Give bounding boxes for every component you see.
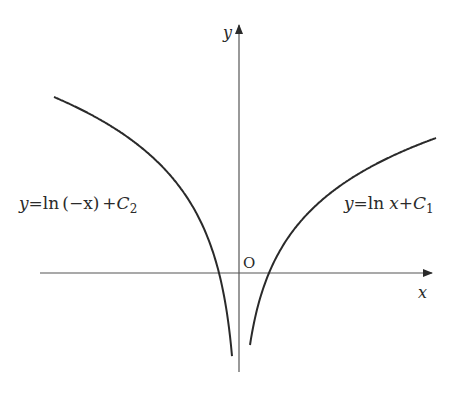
curve-ln-neg-x-plus-c2 (54, 97, 232, 356)
x-axis-label: x (418, 283, 427, 302)
label-eq: = (354, 193, 368, 213)
label-sub: 1 (426, 202, 434, 216)
label-plus: + (399, 193, 413, 213)
label-fn: ln (43, 193, 59, 213)
label-const: C (413, 193, 426, 213)
diagram-canvas: y x O y=lnx+C1 y=ln(−x)+C2 (0, 0, 462, 407)
label-plus: + (102, 193, 116, 213)
label-const: C (117, 193, 130, 213)
label-sub: 2 (130, 202, 138, 216)
y-axis-label: y (222, 23, 233, 42)
label-lhs: y (18, 193, 29, 213)
curve-label-right: y=lnx+C1 (343, 193, 434, 216)
label-arg: x (389, 193, 399, 213)
label-fn: ln (368, 193, 384, 213)
curve-ln-x-plus-c1 (250, 138, 436, 345)
curve-label-left: y=ln(−x)+C2 (18, 193, 137, 216)
origin-label: O (243, 254, 255, 272)
label-eq: = (29, 193, 43, 213)
label-arg: (−x) (62, 193, 99, 213)
diagram: y x O y=lnx+C1 y=ln(−x)+C2 (0, 0, 462, 407)
label-lhs: y (343, 193, 354, 213)
